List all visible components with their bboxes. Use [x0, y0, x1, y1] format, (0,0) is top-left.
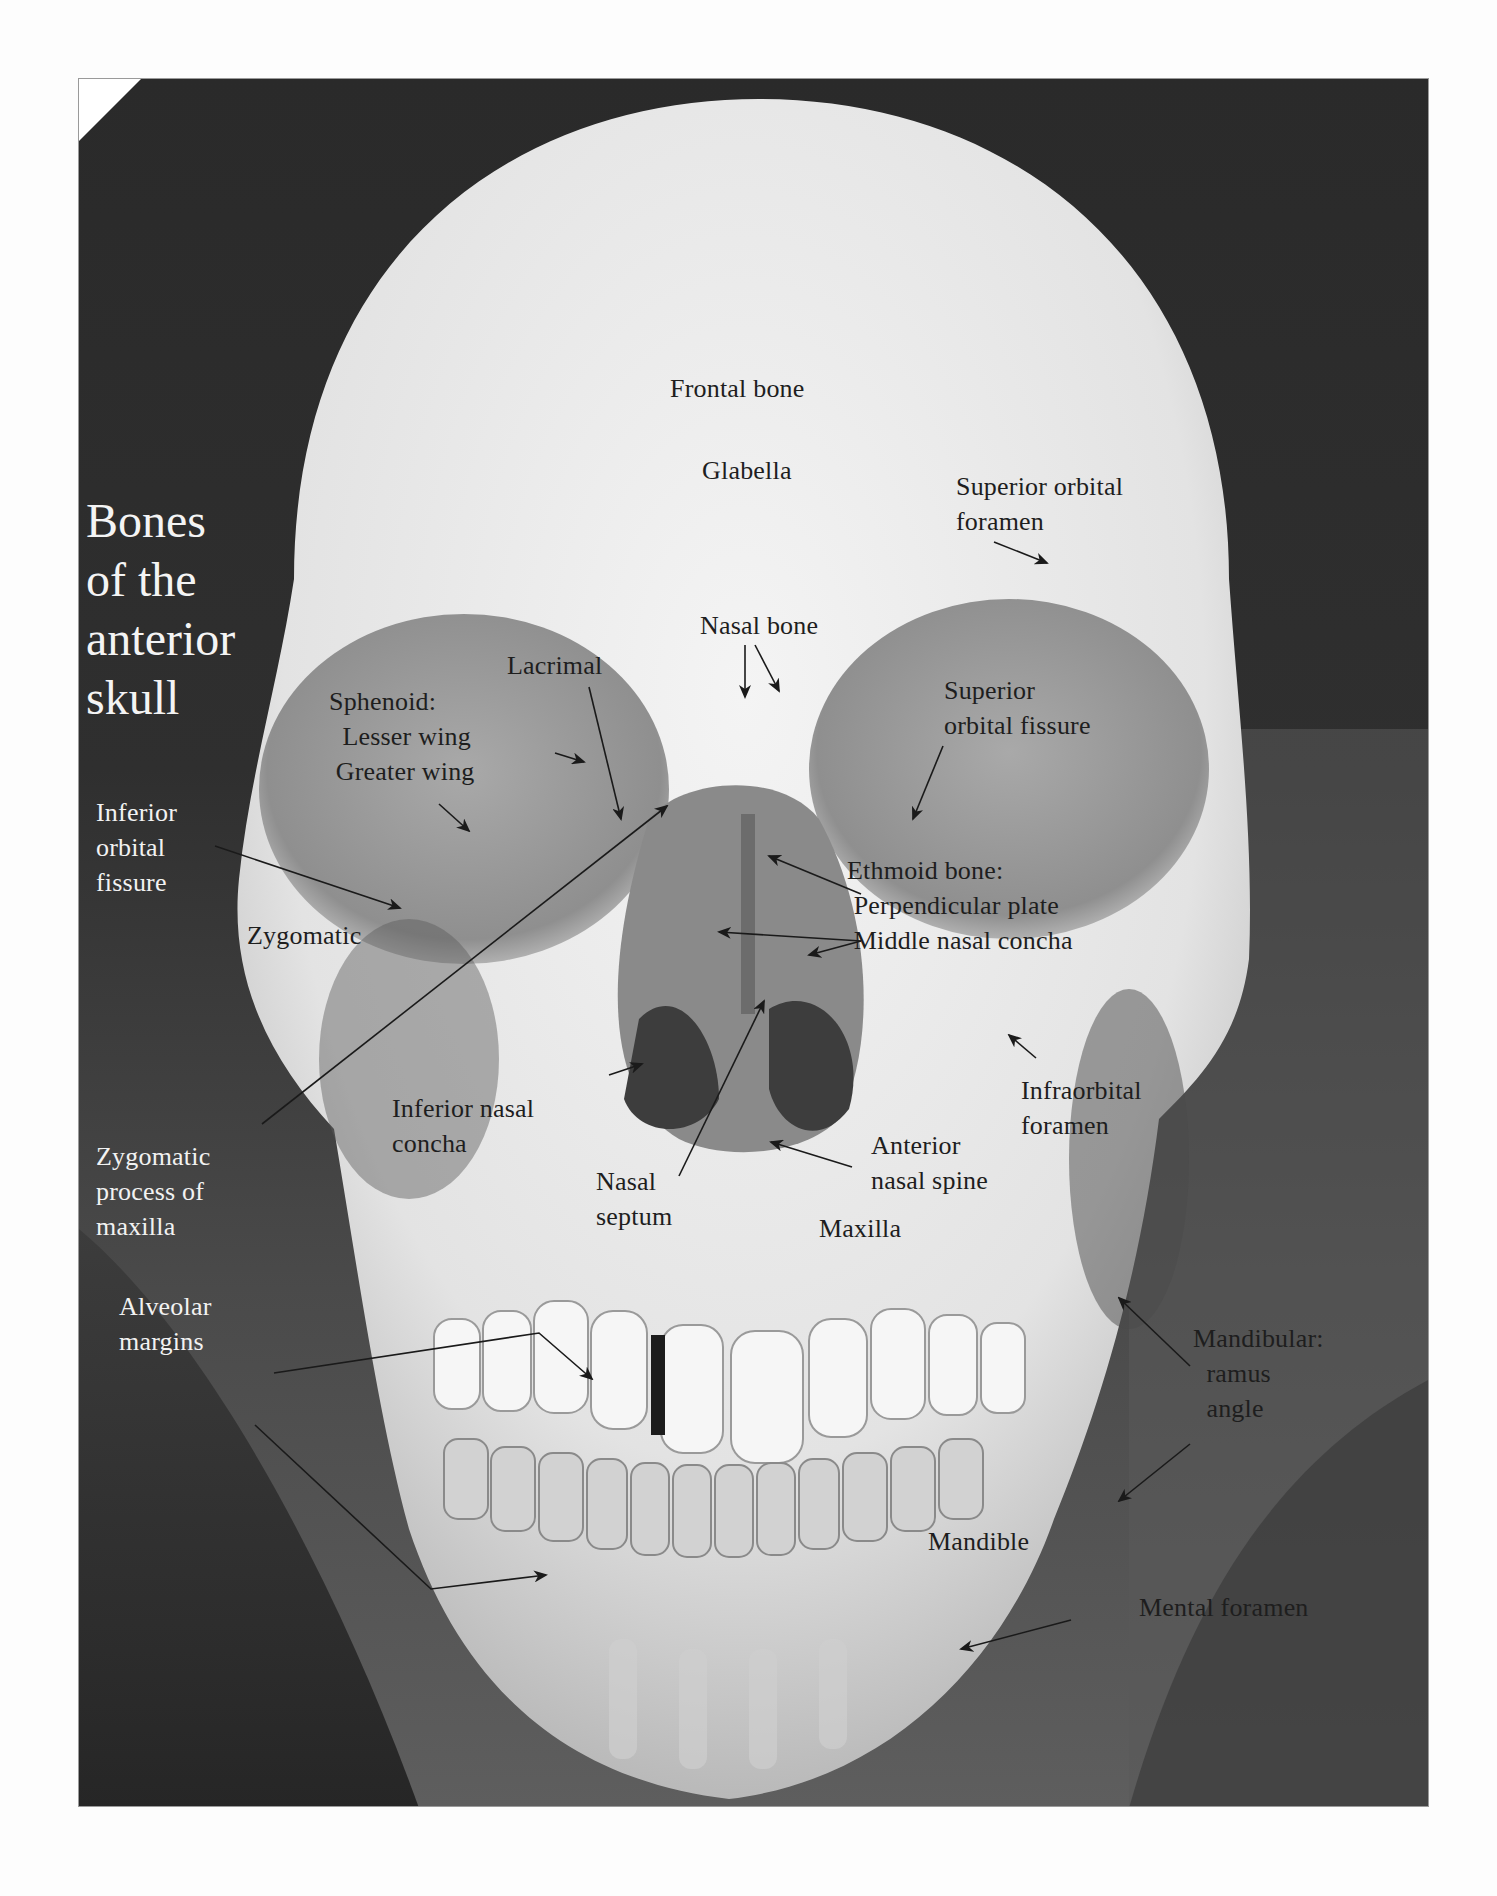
- label-nasal-bone: Nasal bone: [700, 608, 818, 643]
- label-anterior-nasal-spine: Anterior nasal spine: [871, 1128, 988, 1198]
- label-alveolar-margins: Alveolar margins: [119, 1289, 212, 1359]
- label-mandible: Mandible: [928, 1524, 1029, 1559]
- label-maxilla: Maxilla: [819, 1211, 901, 1246]
- label-superior-orbital-fissure: Superior orbital fissure: [944, 673, 1091, 743]
- page-corner-fold: [79, 79, 141, 141]
- label-glabella: Glabella: [702, 453, 792, 488]
- label-ethmoid-bone: Ethmoid bone: Perpendicular plate Middle…: [847, 853, 1073, 958]
- label-zygomatic: Zygomatic: [247, 918, 361, 953]
- label-inferior-orbital-fissure: Inferior orbital fissure: [96, 795, 177, 900]
- label-inferior-nasal-concha: Inferior nasal concha: [392, 1091, 534, 1161]
- label-zygomatic-process-of-maxilla: Zygomatic process of maxilla: [96, 1139, 210, 1244]
- anterior-skull-figure: Bones of the anterior skull Frontal bone…: [78, 78, 1429, 1807]
- label-mental-foramen: Mental foramen: [1139, 1590, 1309, 1625]
- label-sphenoid: Sphenoid: Lesser wing Greater wing: [329, 684, 475, 789]
- label-infraorbital-foramen: Infraorbital foramen: [1021, 1073, 1142, 1143]
- label-lacrimal: Lacrimal: [507, 648, 602, 683]
- label-mandibular: Mandibular: ramus angle: [1193, 1321, 1324, 1426]
- label-nasal-septum: Nasal septum: [596, 1164, 672, 1234]
- label-superior-orbital-foramen: Superior orbital foramen: [956, 469, 1123, 539]
- label-frontal-bone: Frontal bone: [670, 371, 805, 406]
- figure-title: Bones of the anterior skull: [86, 491, 235, 727]
